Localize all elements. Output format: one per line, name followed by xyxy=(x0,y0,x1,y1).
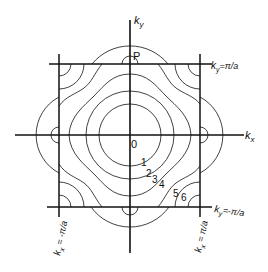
contour-5-bottom-left xyxy=(59,182,84,207)
contour-6-top-left xyxy=(59,64,71,76)
contour-label-1: 1 xyxy=(141,157,147,168)
contour-4-top-left xyxy=(59,64,102,106)
contour-4-bottom-left xyxy=(59,164,102,207)
contour-label-5: 5 xyxy=(173,188,179,199)
boundary-label-bottom: ky=-π/a xyxy=(213,203,245,221)
contour-label-3: 3 xyxy=(152,174,158,185)
contour-6-bottom-right xyxy=(188,195,200,207)
boundary-label-left: kx = -π/a xyxy=(51,220,71,257)
contour-5-top-right xyxy=(175,64,200,89)
contour-5-top-left xyxy=(59,64,84,89)
contour-label-4: 4 xyxy=(159,179,165,190)
brillouin-zone-diagram: ky kx 0 P ky=π/a ky=-π/a kx = -π/a kx = … xyxy=(0,0,268,272)
contour-6-bottom-left xyxy=(59,195,71,207)
kx-axis-label: kx xyxy=(245,129,256,144)
point-p-label: P xyxy=(133,50,140,62)
ky-axis-label: ky xyxy=(134,14,145,29)
contour-4-top-right xyxy=(158,64,200,104)
contour-label-6: 6 xyxy=(181,192,187,203)
boundary-label-top: ky=π/a xyxy=(211,60,238,74)
contour-6-top-right xyxy=(188,64,200,76)
boundary-label-right: kx = π/a xyxy=(192,220,211,254)
origin-label: 0 xyxy=(131,138,137,150)
contour-5-bottom-right xyxy=(175,182,200,207)
